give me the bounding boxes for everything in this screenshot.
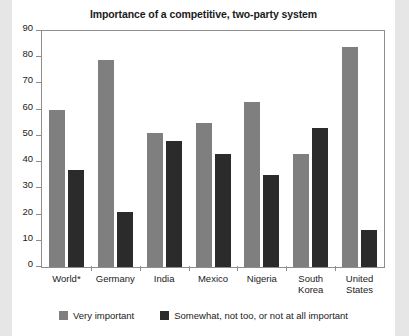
bar — [117, 212, 133, 267]
bar — [196, 123, 212, 267]
legend-item: Very important — [59, 310, 134, 321]
legend-label: Very important — [73, 310, 134, 321]
y-axis-tick-label: 40 — [22, 154, 33, 164]
legend-swatch — [59, 311, 68, 320]
y-axis-tick-label: 50 — [22, 128, 33, 138]
bar — [68, 170, 84, 267]
y-axis-tick-label: 10 — [22, 233, 33, 243]
y-axis-tick-label: 90 — [22, 23, 33, 33]
x-axis-tick-label: Mexico — [189, 273, 238, 295]
x-axis-tick-label: World* — [42, 273, 91, 295]
bar — [215, 154, 231, 267]
bar — [98, 60, 114, 267]
x-axis-tick-label: Nigeria — [237, 273, 286, 295]
chart-legend: Very importantSomewhat, not too, or not … — [12, 310, 395, 321]
bar — [342, 47, 358, 267]
bar — [312, 128, 328, 267]
bar-group — [91, 31, 140, 267]
bar — [361, 230, 377, 267]
x-axis-tick-label: South Korea — [286, 273, 335, 295]
bar — [49, 110, 65, 267]
bar — [263, 175, 279, 267]
bar — [293, 154, 309, 267]
bar — [147, 133, 163, 267]
legend-item: Somewhat, not too, or not at all importa… — [160, 310, 348, 321]
x-axis-tick-label: India — [140, 273, 189, 295]
bar-groups — [42, 31, 384, 267]
bar — [166, 141, 182, 267]
page-margin-right — [395, 0, 409, 336]
bar-group — [335, 31, 384, 267]
y-axis-tick-label: 60 — [22, 102, 33, 112]
y-axis-tick-label: 20 — [22, 207, 33, 217]
chart-title: Importance of a competitive, two-party s… — [12, 8, 395, 21]
y-axis-tick-label: 80 — [22, 49, 33, 59]
y-axis: 0102030405060708090 — [0, 30, 41, 268]
legend-swatch — [160, 311, 169, 320]
bar-group — [237, 31, 286, 267]
bar-group — [286, 31, 335, 267]
bar — [244, 102, 260, 267]
x-axis: World*GermanyIndiaMexicoNigeriaSouth Kor… — [42, 273, 384, 295]
chart-page: Importance of a competitive, two-party s… — [0, 0, 409, 336]
bar-group — [42, 31, 91, 267]
x-axis-tick-label: Germany — [91, 273, 140, 295]
legend-label: Somewhat, not too, or not at all importa… — [174, 310, 348, 321]
y-axis-tick-label: 30 — [22, 180, 33, 190]
bar-group — [189, 31, 238, 267]
x-axis-tick-label: United States — [335, 273, 384, 295]
y-axis-tick-label: 0 — [28, 259, 33, 269]
y-axis-tick-label: 70 — [22, 75, 33, 85]
bar-group — [140, 31, 189, 267]
